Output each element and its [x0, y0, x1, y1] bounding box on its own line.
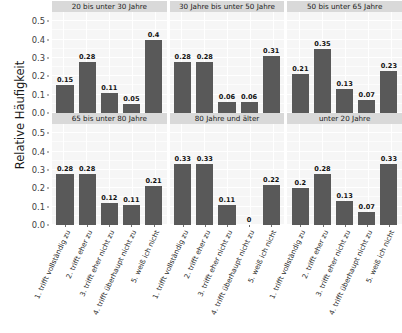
- y-tick-label: 0.3: [32, 165, 45, 175]
- facet-panel: 20 bis unter 30 Jahre0.150.280.110.050.4: [52, 1, 167, 113]
- bar: [79, 62, 96, 113]
- bar-value-label: 0.15: [57, 76, 73, 84]
- bar: [196, 62, 213, 113]
- bar: [263, 185, 280, 225]
- y-tick-mark: [47, 206, 49, 207]
- bar-series: 0.150.280.110.050.4: [52, 12, 167, 113]
- x-tick-mark: [154, 225, 155, 227]
- bar: [314, 49, 331, 113]
- bar-value-label: 0.28: [79, 53, 95, 61]
- bar: [101, 93, 118, 113]
- x-tick-mark: [109, 225, 110, 227]
- facet-grid: 20 bis unter 30 Jahre0.150.280.110.050.4…: [52, 1, 402, 225]
- x-tick-mark: [389, 225, 390, 227]
- bar-slot: 0.13: [336, 12, 353, 113]
- bar-slot: 0.28: [56, 124, 73, 225]
- y-tick-mark: [47, 94, 49, 95]
- bar-value-label: 0.35: [314, 40, 330, 48]
- y-axis-ticks-row-2: 0.00.10.20.30.40.5: [24, 124, 49, 225]
- bar-value-label: 0.12: [101, 194, 117, 202]
- bar: [358, 100, 375, 113]
- bar-value-label: 0.28: [79, 165, 95, 173]
- bar-slot: 0.07: [358, 12, 375, 113]
- y-tick-mark: [47, 57, 49, 58]
- facet-plot-area: 0.280.280.060.060.31: [170, 12, 285, 113]
- y-tick-mark: [47, 188, 49, 189]
- y-tick-label: 0.3: [32, 53, 45, 63]
- bar: [56, 85, 73, 113]
- bar-slot: 0.05: [123, 12, 140, 113]
- bar-slot: 0.11: [218, 124, 235, 225]
- bar: [101, 203, 118, 225]
- x-tick-mark: [87, 225, 88, 227]
- y-tick-mark: [47, 169, 49, 170]
- y-tick-label: 0.5: [32, 16, 45, 26]
- y-tick-mark: [47, 21, 49, 22]
- facet-plot-area: 0.280.280.120.110.21: [52, 124, 167, 225]
- x-axis-facet: 1. trifft vollständig zu2. trifft eher z…: [287, 225, 402, 333]
- bar: [292, 74, 309, 113]
- bar-slot: 0.28: [79, 124, 96, 225]
- bar-value-label: 0.28: [197, 53, 213, 61]
- bar: [123, 104, 140, 113]
- facet-panel: 50 bis unter 65 Jahre0.210.350.130.070.2…: [287, 1, 402, 113]
- bar-value-label: 0.2: [295, 179, 307, 187]
- bar-value-label: 0: [247, 216, 252, 224]
- x-axis: 1. trifft vollständig zu2. trifft eher z…: [52, 225, 402, 333]
- facet-plot-area: 0.150.280.110.050.4: [52, 12, 167, 113]
- x-axis-facet: 1. trifft vollständig zu2. trifft eher z…: [170, 225, 285, 333]
- facet-plot-area: 0.330.330.1100.22: [170, 124, 285, 225]
- bar-slot: 0.21: [145, 124, 162, 225]
- y-tick-label: 0.0: [32, 108, 45, 118]
- bar-slot: 0.28: [314, 124, 331, 225]
- bar: [145, 186, 162, 225]
- bar-value-label: 0.28: [57, 165, 73, 173]
- x-tick-mark: [65, 225, 66, 227]
- bar-slot: 0.12: [101, 124, 118, 225]
- facet-strip-label: 50 bis unter 65 Jahre: [287, 1, 402, 12]
- bar-value-label: 0.13: [336, 192, 352, 200]
- bar-value-label: 0.23: [381, 62, 397, 70]
- bar-slot: 0.11: [123, 124, 140, 225]
- bar-value-label: 0.11: [101, 84, 117, 92]
- y-tick-label: 0.5: [32, 128, 45, 138]
- y-tick-label: 0.2: [32, 71, 45, 81]
- x-tick-mark: [300, 225, 301, 227]
- facet-plot-area: 0.20.280.130.070.33: [287, 124, 402, 225]
- facet-panel: 30 Jahre bis unter 50 Jahre0.280.280.060…: [170, 1, 285, 113]
- bar-value-label: 0.11: [123, 196, 139, 204]
- facet-panel: 80 Jahre und älter0.330.330.1100.22: [170, 113, 285, 225]
- bar-slot: 0.11: [101, 12, 118, 113]
- bar-slot: 0.07: [358, 124, 375, 225]
- y-tick-mark: [47, 76, 49, 77]
- bar-slot: 0.31: [263, 12, 280, 113]
- x-tick-slot: 5. weiß ich nicht: [380, 225, 397, 333]
- x-tick-mark: [183, 225, 184, 227]
- bar-slot: 0: [241, 124, 258, 225]
- bar: [174, 62, 191, 113]
- bar-value-label: 0.11: [219, 196, 235, 204]
- bar-value-label: 0.13: [336, 80, 352, 88]
- y-tick-label: 0.0: [32, 220, 45, 230]
- bar-value-label: 0.4: [148, 31, 160, 39]
- bar-slot: 0.06: [241, 12, 258, 113]
- y-tick-mark: [47, 225, 49, 226]
- bar-series: 0.280.280.120.110.21: [52, 124, 167, 225]
- x-tick-mark: [367, 225, 368, 227]
- bar-slot: 0.28: [196, 12, 213, 113]
- bar-slot: 0.28: [79, 12, 96, 113]
- y-tick-label: 0.4: [32, 35, 45, 45]
- bar-slot: 0.33: [196, 124, 213, 225]
- bar-value-label: 0.33: [175, 155, 191, 163]
- x-axis-facet: 1. trifft vollständig zu2. trifft eher z…: [52, 225, 167, 333]
- bar: [358, 212, 375, 225]
- y-tick-label: 0.4: [32, 147, 45, 157]
- facet-plot-area: 0.210.350.130.070.23: [287, 12, 402, 113]
- facet-strip-label: 65 bis unter 80 Jahre: [52, 113, 167, 124]
- bar-value-label: 0.28: [314, 165, 330, 173]
- bar-series: 0.280.280.060.060.31: [170, 12, 285, 113]
- facet-panel: 65 bis unter 80 Jahre0.280.280.120.110.2…: [52, 113, 167, 225]
- bar-slot: 0.33: [174, 124, 191, 225]
- bar-slot: 0.23: [380, 12, 397, 113]
- bar-slot: 0.4: [145, 12, 162, 113]
